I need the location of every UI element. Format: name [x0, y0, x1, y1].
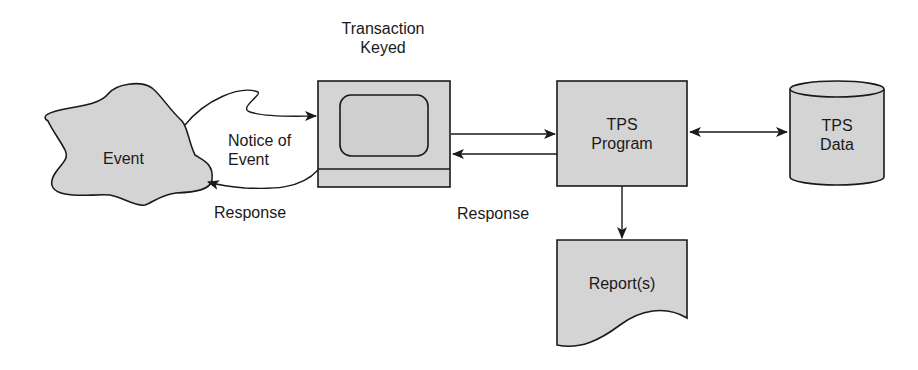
- terminal-screen: [340, 95, 428, 156]
- tps-data-line1: TPS: [790, 116, 884, 135]
- tps-data-label: TPS Data: [790, 116, 884, 154]
- tps-program-label: TPS Program: [557, 115, 687, 153]
- transaction-label-line2: Keyed: [328, 38, 438, 57]
- event-cloud-shape: [45, 84, 212, 206]
- tps-program-line2: Program: [557, 134, 687, 153]
- reports-label: Report(s): [557, 274, 687, 293]
- notice-label-line2: Event: [228, 150, 291, 169]
- response-event-label: Response: [214, 203, 286, 222]
- transaction-label-line1: Transaction: [328, 19, 438, 38]
- report-document-shape: [557, 240, 687, 346]
- diagram-canvas: [0, 0, 918, 370]
- notice-label-line1: Notice of: [228, 131, 291, 150]
- notice-of-event-arrow: [185, 90, 316, 125]
- event-label: Event: [103, 149, 144, 168]
- notice-of-event-label: Notice of Event: [228, 131, 291, 169]
- transaction-keyed-label: Transaction Keyed: [328, 19, 438, 57]
- response-program-label: Response: [457, 204, 529, 223]
- response-to-event-arrow: [208, 170, 318, 188]
- tps-program-line1: TPS: [557, 115, 687, 134]
- tps-data-cylinder-top: [790, 81, 884, 97]
- tps-data-line2: Data: [790, 135, 884, 154]
